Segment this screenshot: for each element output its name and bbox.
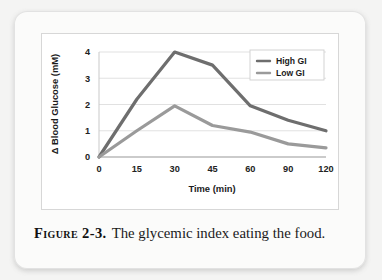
x-tick-label: 30: [170, 164, 180, 174]
glycemic-line-chart: 01234 01530456090120 Δ Blood Glucose (mM…: [42, 34, 338, 209]
y-tick-label: 3: [85, 74, 90, 84]
chart-legend: High GILow GI: [250, 50, 324, 80]
x-tick-label: 45: [207, 164, 217, 174]
figure-caption: Figure 2-3. The glycemic index eating th…: [34, 216, 354, 250]
x-axis-title: Time (min): [188, 183, 235, 194]
x-tick-label: 0: [96, 164, 101, 174]
figure-root: 01234 01530456090120 Δ Blood Glucose (mM…: [0, 0, 382, 280]
y-tick-label: 2: [85, 100, 90, 110]
chart-panel: 01234 01530456090120 Δ Blood Glucose (mM…: [41, 33, 339, 210]
x-tick-label: 60: [245, 164, 255, 174]
legend-label: Low GI: [276, 68, 305, 78]
legend-label: High GI: [276, 56, 307, 66]
x-tick-label: 90: [283, 164, 293, 174]
y-tick-label: 4: [85, 47, 91, 57]
y-tick-label: 1: [85, 126, 90, 136]
x-tick-label: 120: [318, 164, 333, 174]
y-axis-title: Δ Blood Glucose (mM): [49, 54, 60, 155]
y-tick-label: 0: [85, 152, 90, 162]
x-tick-label: 15: [132, 164, 142, 174]
figure-caption-label: Figure 2-3.: [34, 225, 107, 242]
figure-caption-text: The glycemic index eating the food.: [112, 225, 326, 242]
figure-card: 01234 01530456090120 Δ Blood Glucose (mM…: [14, 11, 366, 269]
